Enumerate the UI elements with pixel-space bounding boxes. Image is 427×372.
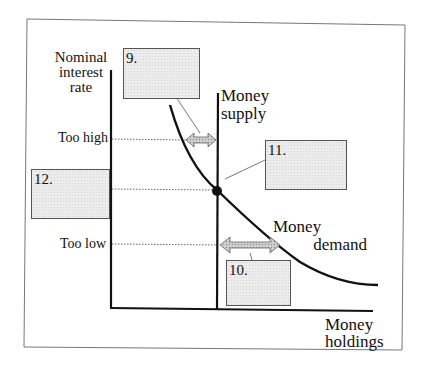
answer-box-11-number: 11. (268, 142, 286, 159)
answer-box-10[interactable]: 10. (226, 260, 291, 306)
too-high-double-arrow (186, 133, 216, 147)
leader-11 (225, 160, 265, 179)
leader-9 (176, 97, 200, 133)
money-supply-line (217, 93, 218, 309)
x-axis (110, 308, 373, 311)
answer-box-9-number: 9. (126, 50, 137, 67)
money-supply-label: Money supply (221, 87, 269, 123)
x-axis-title: Money holdings (325, 316, 384, 350)
money-demand-curve (170, 105, 378, 285)
answer-box-11[interactable]: 11. (265, 140, 347, 190)
answer-box-10-number: 10. (229, 262, 248, 279)
equilibrium-point (212, 186, 222, 196)
money-demand-label: Money demand (271, 218, 367, 254)
answer-box-12[interactable]: 12. (31, 169, 110, 219)
y-axis-title: Nominal interest rate (50, 50, 112, 95)
answer-box-9[interactable]: 9. (123, 48, 200, 99)
equilibrium-guide (112, 189, 215, 190)
too-low-guide (112, 244, 220, 245)
leader-10 (250, 253, 252, 260)
answer-box-12-number: 12. (34, 171, 53, 188)
too-high-label: Too high (40, 131, 108, 145)
too-high-guide (112, 139, 186, 140)
money-market-diagram: Nominal interest rate Money holdings Mon… (0, 0, 427, 372)
too-low-label: Too low (40, 237, 106, 251)
